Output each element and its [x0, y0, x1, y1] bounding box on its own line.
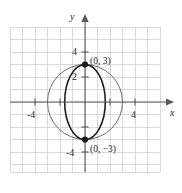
- point-marker-top: [82, 61, 88, 67]
- y-tick-label-neg4: -4: [66, 148, 74, 158]
- point-marker-bottom: [82, 136, 88, 142]
- y-tick-label-2: 2: [72, 72, 77, 82]
- x-tick-label-pos4: 4: [131, 110, 136, 120]
- graph-figure: y x 4 2 -4 -4 4 (0, 3) (0, −3): [0, 0, 182, 193]
- coordinate-plane: [0, 0, 182, 193]
- y-tick-label-4: 4: [72, 47, 77, 57]
- x-tick-label-neg4: -4: [27, 110, 35, 120]
- x-axis-arrow: [166, 98, 174, 105]
- axis-lines: [10, 22, 166, 172]
- x-axis-label: x: [170, 108, 174, 118]
- y-axis-arrow: [81, 14, 88, 22]
- point-label-bottom: (0, −3): [90, 145, 116, 155]
- y-axis-label: y: [70, 12, 74, 22]
- point-label-top: (0, 3): [90, 57, 111, 67]
